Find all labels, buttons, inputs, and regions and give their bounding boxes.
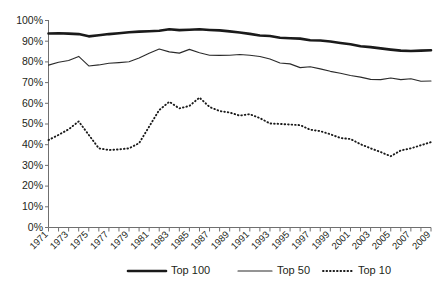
x-axis-tick-label: 1993 — [249, 229, 272, 252]
x-axis-tick-label: 1979 — [108, 229, 131, 252]
x-axis-tick-label: 1983 — [148, 229, 171, 252]
x-axis-tick-label: 1987 — [188, 229, 211, 252]
chart-container: 0%10%20%30%40%50%60%70%80%90%100% 197119… — [0, 0, 446, 286]
x-axis-tick-label: 1997 — [289, 229, 312, 252]
y-axis-tick-label: 100% — [16, 14, 43, 26]
y-axis-tick-label: 30% — [22, 159, 43, 171]
x-axis-tick-label: 1985 — [168, 229, 191, 252]
x-axis-tick-label: 1975 — [67, 229, 90, 252]
legend-label-top-10: Top 10 — [358, 264, 391, 276]
x-axis-tick-label: 1981 — [128, 229, 151, 252]
y-axis-ticks — [45, 21, 49, 228]
y-axis-tick-label: 40% — [22, 138, 43, 150]
y-axis-labels: 0%10%20%30%40%50%60%70%80%90%100% — [16, 14, 43, 233]
x-axis-tick-label: 1989 — [208, 229, 231, 252]
x-axis-ticks — [49, 228, 432, 232]
x-axis-tick-label: 1999 — [309, 229, 332, 252]
x-axis-tick-label: 2001 — [329, 229, 352, 252]
y-axis-tick-label: 20% — [22, 179, 43, 191]
y-axis-tick-label: 50% — [22, 117, 43, 129]
y-axis-tick-label: 90% — [22, 35, 43, 47]
legend-label-top-50: Top 50 — [277, 264, 310, 276]
x-axis-tick-label: 1995 — [269, 229, 292, 252]
x-axis-tick-label: 1991 — [229, 229, 252, 252]
series-line-top-10 — [49, 98, 432, 157]
x-axis-tick-label: 2005 — [369, 229, 392, 252]
y-axis-tick-label: 70% — [22, 76, 43, 88]
legend-label-top-100: Top 100 — [171, 264, 210, 276]
x-axis-tick-label: 2007 — [390, 229, 413, 252]
x-axis-tick-label: 2009 — [410, 229, 433, 252]
line-chart: 0%10%20%30%40%50%60%70%80%90%100% 197119… — [0, 0, 446, 286]
x-axis-labels: 1971197319751977197919811983198519871989… — [27, 229, 432, 252]
series-layer — [49, 29, 432, 156]
y-axis-tick-label: 60% — [22, 97, 43, 109]
series-line-top-50 — [49, 49, 432, 81]
series-line-top-100 — [49, 29, 432, 51]
y-axis-tick-label: 80% — [22, 55, 43, 67]
y-axis-tick-label: 10% — [22, 200, 43, 212]
x-axis-tick-label: 1977 — [88, 229, 111, 252]
x-axis-tick-label: 1973 — [47, 229, 70, 252]
chart-legend: Top 100Top 50Top 10 — [128, 264, 391, 276]
x-axis-tick-label: 2003 — [349, 229, 372, 252]
